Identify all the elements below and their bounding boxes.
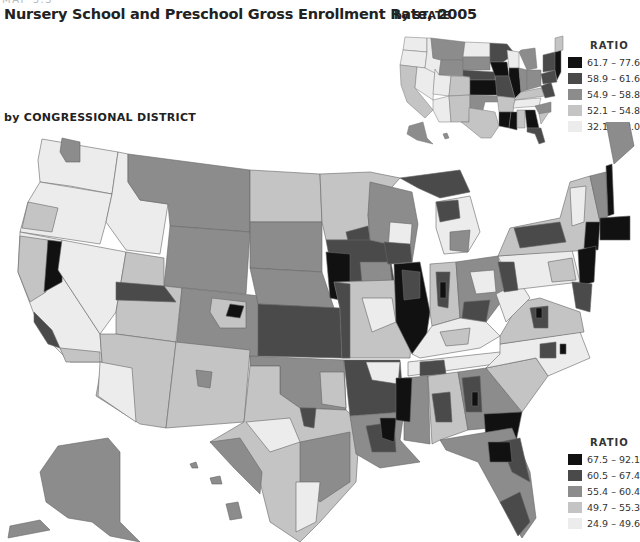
- legend-label: 24.9 – 49.6: [587, 518, 640, 529]
- legend-label: 61.7 – 77.6: [587, 57, 640, 68]
- state-legend: RATIO 61.7 – 77.6 58.9 – 61.6 54.9 – 58.…: [568, 40, 640, 134]
- district-choropleth-map: [0, 122, 635, 542]
- legend-swatch: [568, 57, 582, 68]
- legend-label: 67.5 – 92.1: [587, 454, 640, 465]
- district-legend-item: 49.7 – 55.3: [568, 499, 640, 515]
- legend-label: 52.1 – 54.8: [587, 105, 640, 116]
- legend-swatch: [568, 518, 582, 529]
- state-legend-item: 54.9 – 58.8: [568, 86, 640, 102]
- legend-swatch: [568, 454, 582, 465]
- district-legend: RATIO 67.5 – 92.1 60.5 – 67.4 55.4 – 60.…: [568, 437, 640, 531]
- state-legend-item: 58.9 – 61.6: [568, 70, 640, 86]
- legend-label: 49.7 – 55.3: [587, 502, 640, 513]
- state-legend-item: 61.7 – 77.6: [568, 54, 640, 70]
- map-number: MAP 3.3: [2, 0, 53, 5]
- legend-swatch: [568, 73, 582, 84]
- district-legend-item: 55.4 – 60.4: [568, 483, 640, 499]
- district-legend-item: 24.9 – 49.6: [568, 515, 640, 531]
- legend-label: 60.5 – 67.4: [587, 470, 640, 481]
- legend-swatch: [568, 105, 582, 116]
- district-legend-item: 60.5 – 67.4: [568, 467, 640, 483]
- legend-swatch: [568, 502, 582, 513]
- district-legend-item: 67.5 – 92.1: [568, 451, 640, 467]
- state-map-subtitle: by STATE: [394, 9, 450, 22]
- state-legend-title: RATIO: [568, 40, 640, 51]
- state-legend-item: 52.1 – 54.8: [568, 102, 640, 118]
- legend-label: 55.4 – 60.4: [587, 486, 640, 497]
- legend-label: 58.9 – 61.6: [587, 73, 640, 84]
- legend-label: 54.9 – 58.8: [587, 89, 640, 100]
- district-legend-title: RATIO: [568, 437, 640, 448]
- legend-swatch: [568, 470, 582, 481]
- legend-swatch: [568, 486, 582, 497]
- legend-swatch: [568, 89, 582, 100]
